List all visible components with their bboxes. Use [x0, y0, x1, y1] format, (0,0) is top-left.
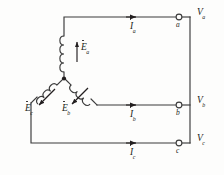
current-label-a: Ia	[130, 22, 136, 34]
voltage-label-a: Va	[197, 8, 206, 20]
terminal-label-b: b	[176, 109, 180, 117]
terminal-label-a: a	[176, 21, 180, 29]
emf-arrow-c	[39, 89, 55, 105]
emf-label-a: Ea	[81, 43, 90, 55]
coil-phase-c	[35, 82, 57, 104]
emf-label-c: Ec	[25, 104, 33, 116]
current-label-c: Ic	[130, 148, 136, 160]
wire-phase-c	[31, 103, 178, 143]
voltage-label-c: Vc	[197, 134, 205, 146]
coil-phase-a	[60, 36, 64, 72]
wire-phase-a	[64, 17, 178, 36]
wire-coil-b-tail	[91, 99, 97, 105]
voltage-label-b: Vb	[197, 96, 206, 108]
circuit-diagram	[0, 0, 224, 175]
terminal-label-c: c	[176, 147, 179, 155]
neutral-node	[62, 76, 66, 80]
current-label-b: Ib	[130, 110, 136, 122]
emf-label-b: Eb	[62, 104, 71, 116]
coil-phase-b	[68, 85, 90, 107]
emf-arrow-b	[72, 88, 88, 104]
